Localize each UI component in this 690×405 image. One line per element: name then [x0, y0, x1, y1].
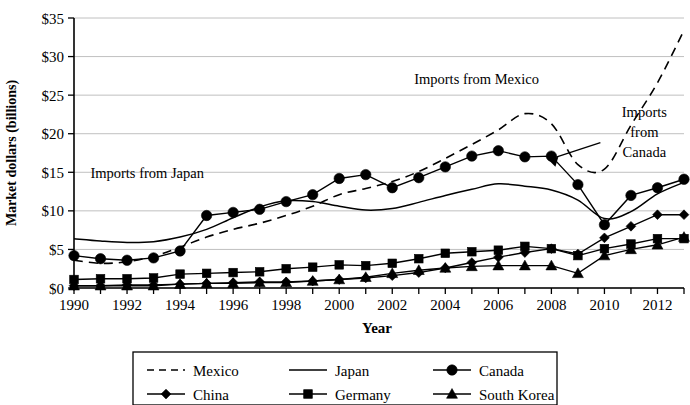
marker-square — [414, 254, 423, 263]
data-series-group — [69, 30, 690, 290]
marker-square — [521, 242, 530, 251]
marker-circle — [307, 189, 317, 199]
marker-square — [304, 390, 313, 399]
x-tick-label: 1998 — [271, 297, 301, 313]
y-tick-label: $25 — [42, 88, 65, 104]
marker-circle — [201, 210, 211, 220]
series-line — [74, 30, 684, 263]
y-tick-label: $20 — [42, 126, 65, 142]
marker-square — [255, 268, 264, 277]
x-tick-label: 1990 — [59, 297, 89, 313]
marker-circle — [69, 250, 79, 260]
x-tick-label: 2012 — [642, 297, 672, 313]
annotation-text: Canada — [623, 144, 667, 160]
plot-annotations: Imports from JapanImports from MexicoImp… — [90, 71, 667, 181]
marker-circle — [652, 183, 662, 193]
x-tick-label: 2000 — [324, 297, 354, 313]
marker-square — [547, 244, 556, 253]
x-axis-ticks — [74, 288, 684, 294]
marker-square — [282, 264, 291, 273]
marker-circle — [361, 169, 371, 179]
x-tick-label: 2008 — [536, 297, 566, 313]
axis-lines — [74, 18, 684, 288]
legend-item-mexico[interactable]: Mexico — [147, 363, 239, 379]
marker-circle — [414, 172, 424, 182]
legend-item-china[interactable]: China — [147, 387, 229, 403]
legend-label: Mexico — [193, 363, 239, 379]
chart-canvas: $0$5$10$15$20$25$30$35 19901992199419961… — [0, 0, 690, 405]
marker-square — [308, 263, 317, 272]
x-tick-label: 2004 — [430, 297, 461, 313]
marker-square — [388, 259, 397, 268]
annotation-imports-from-mexico: Imports from Mexico — [414, 71, 539, 87]
annotation-text: from — [630, 124, 659, 140]
marker-circle — [599, 220, 609, 230]
marker-circle — [447, 365, 457, 375]
legend-item-canada[interactable]: Canada — [433, 363, 524, 379]
legend-label: South Korea — [479, 387, 555, 403]
marker-circle — [387, 183, 397, 193]
marker-circle — [148, 253, 158, 263]
gridlines — [74, 18, 684, 288]
y-axis-ticks — [68, 18, 74, 288]
annotation-leader — [548, 143, 600, 160]
marker-square — [494, 246, 503, 255]
marker-square — [202, 269, 211, 278]
annotation-imports-from-canada: ImportsfromCanada — [548, 104, 667, 167]
legend-label: Germany — [335, 387, 391, 403]
legend-label: Japan — [335, 363, 370, 379]
series-japan — [74, 182, 684, 242]
x-tick-label: 2006 — [483, 297, 514, 313]
legend-label: Canada — [479, 363, 524, 379]
chart-legend: MexicoJapanCanadaChinaGermanySouth Korea — [133, 352, 557, 405]
legend-item-japan[interactable]: Japan — [289, 363, 370, 379]
marker-square — [229, 268, 238, 277]
x-axis-title: Year — [362, 320, 392, 336]
marker-diamond — [161, 389, 171, 399]
legend-item-south-korea[interactable]: South Korea — [433, 387, 555, 403]
legend-label: China — [193, 387, 229, 403]
marker-circle — [520, 152, 530, 162]
marker-circle — [281, 196, 291, 206]
x-tick-label: 2010 — [589, 297, 619, 313]
x-tick-label: 1996 — [218, 297, 249, 313]
annotation-imports-from-japan: Imports from Japan — [90, 165, 204, 181]
x-tick-label: 1992 — [112, 297, 142, 313]
series-line — [74, 182, 684, 242]
marker-circle — [254, 204, 264, 214]
x-tick-label: 2002 — [377, 297, 407, 313]
marker-circle — [95, 253, 105, 263]
marker-circle — [122, 255, 132, 265]
y-tick-label: $30 — [42, 49, 65, 65]
marker-circle — [493, 145, 503, 155]
series-mexico — [74, 30, 684, 263]
y-axis-tick-labels: $0$5$10$15$20$25$30$35 — [42, 11, 65, 297]
marker-circle — [467, 151, 477, 161]
legend-item-germany[interactable]: Germany — [289, 387, 391, 403]
marker-square — [335, 261, 344, 270]
marker-diamond — [600, 233, 610, 243]
y-tick-label: $10 — [42, 203, 65, 219]
marker-square — [361, 261, 370, 270]
y-axis-title: Market dollars (billions) — [4, 80, 20, 227]
series-canada — [69, 145, 689, 265]
marker-circle — [573, 179, 583, 189]
y-tick-label: $35 — [42, 11, 65, 27]
annotation-text: Imports from Japan — [90, 165, 204, 181]
marker-square — [176, 270, 185, 279]
import-market-share-chart: $0$5$10$15$20$25$30$35 19901992199419961… — [0, 0, 690, 405]
x-tick-label: 1994 — [165, 297, 196, 313]
marker-diamond — [626, 221, 636, 231]
y-tick-label: $5 — [49, 242, 64, 258]
marker-circle — [228, 207, 238, 217]
annotation-text: Imports — [622, 104, 667, 120]
marker-square — [468, 247, 477, 256]
annotation-text: Imports from Mexico — [414, 71, 539, 87]
marker-square — [574, 251, 583, 260]
marker-circle — [679, 174, 689, 184]
marker-circle — [334, 173, 344, 183]
x-axis-tick-labels: 1990199219941996199820002002200420062008… — [59, 297, 672, 313]
marker-circle — [175, 246, 185, 256]
y-tick-label: $15 — [42, 165, 65, 181]
marker-circle — [440, 162, 450, 172]
